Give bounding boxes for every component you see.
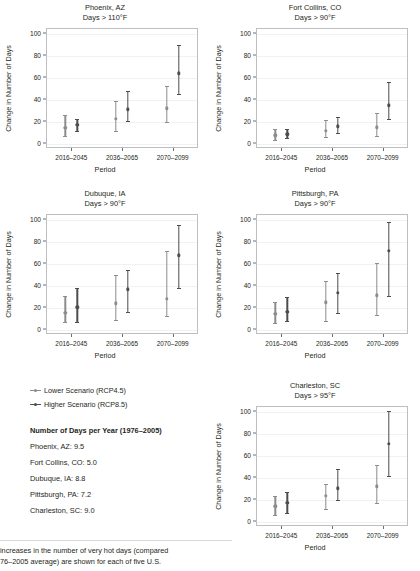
y-axis-tick-mark bbox=[43, 284, 46, 285]
y-axis-label-text: Change in Number of Days bbox=[4, 45, 13, 132]
gridline bbox=[257, 456, 407, 457]
error-bar-cap-upper bbox=[165, 251, 169, 252]
y-axis-tick-label: 40 bbox=[25, 281, 41, 288]
error-bar-cap-lower bbox=[285, 321, 289, 322]
y-axis-label-text: Change in Number of Days bbox=[214, 231, 223, 318]
error-bar-cap-upper bbox=[336, 469, 340, 470]
y-axis-label: Change in Number of Days bbox=[212, 406, 224, 526]
y-axis-tick-mark bbox=[43, 241, 46, 242]
gridline bbox=[257, 144, 407, 145]
gridline bbox=[47, 308, 197, 309]
error-bar-line bbox=[166, 251, 167, 316]
plot-area: Change in Number of Days0204060801002016… bbox=[210, 402, 420, 564]
error-bar-line bbox=[376, 113, 377, 136]
error-bar-line bbox=[166, 86, 167, 121]
error-bar-cap-lower bbox=[177, 288, 181, 289]
gridline bbox=[47, 34, 197, 35]
error-bar-cap-upper bbox=[273, 302, 277, 303]
error-bar-cap-lower bbox=[75, 322, 79, 323]
baseline-row-phoenix: Phoenix, AZ: 9.5 bbox=[30, 442, 205, 451]
error-bar-cap-upper bbox=[375, 113, 379, 114]
error-bar-cap-lower bbox=[375, 315, 379, 316]
y-axis-tick-mark bbox=[253, 284, 256, 285]
chart-panel-pittsburgh: Pittsburgh, PADays > 90°FChange in Numbe… bbox=[210, 186, 420, 372]
y-axis-tick-label: 100 bbox=[235, 408, 251, 415]
chart-panel-phoenix: Phoenix, AZDays > 110°FChange in Number … bbox=[0, 0, 210, 186]
error-bar-cap-lower bbox=[387, 476, 391, 477]
x-axis-tick-label: 2036–2065 bbox=[316, 154, 348, 161]
chart-panel-charleston: Charleston, SCDays > 95°FChange in Numbe… bbox=[210, 378, 420, 564]
x-axis-tick-label: 2070–2099 bbox=[367, 340, 399, 347]
error-bar-cap-lower bbox=[387, 119, 391, 120]
gridline bbox=[257, 56, 407, 57]
error-bar-cap-upper bbox=[177, 45, 181, 46]
error-bar-cap-lower bbox=[285, 138, 289, 139]
error-bar-cap-upper bbox=[177, 225, 181, 226]
y-axis-tick-mark bbox=[253, 455, 256, 456]
panel-title-city: Phoenix, AZ bbox=[85, 3, 125, 12]
y-axis-tick-label: 0 bbox=[235, 517, 251, 524]
panel-title-threshold: Days > 110°F bbox=[0, 13, 210, 23]
y-axis-tick-label: 80 bbox=[235, 52, 251, 59]
error-bar-cap-lower bbox=[114, 320, 118, 321]
error-bar-cap-lower bbox=[63, 136, 67, 137]
error-bar-cap-upper bbox=[75, 288, 79, 289]
y-axis-tick-label: 100 bbox=[235, 216, 251, 223]
baseline-days-heading: Number of Days per Year (1976–2005) bbox=[30, 426, 205, 435]
x-axis-tick-label: 2016–2045 bbox=[265, 154, 297, 161]
y-axis-tick-label: 80 bbox=[25, 52, 41, 59]
panel-title: Phoenix, AZDays > 110°F bbox=[0, 0, 210, 22]
plot-area: Change in Number of Days0204060801002016… bbox=[210, 24, 420, 186]
x-axis-label: Period bbox=[210, 165, 420, 174]
gridline bbox=[257, 34, 407, 35]
error-bar-cap-upper bbox=[165, 86, 169, 87]
x-axis-tick-label: 2070–2099 bbox=[367, 532, 399, 539]
error-bar-line bbox=[65, 296, 66, 322]
gridline bbox=[47, 78, 197, 79]
y-axis-tick-mark bbox=[253, 77, 256, 78]
panel-title-city: Fort Collins, CO bbox=[289, 3, 342, 12]
plot-frame bbox=[256, 406, 408, 526]
error-bar-line bbox=[127, 91, 128, 121]
gridline bbox=[257, 122, 407, 123]
legend-errorbar-icon bbox=[30, 401, 41, 408]
gridline bbox=[257, 330, 407, 331]
baseline-days-info: Number of Days per Year (1976–2005) Phoe… bbox=[30, 426, 205, 522]
panel-title-threshold: Days > 95°F bbox=[210, 391, 420, 401]
gridline bbox=[47, 122, 197, 123]
y-axis-tick-mark bbox=[253, 498, 256, 499]
legend-item-higher: Higher Scenario (RCP8.5) bbox=[30, 400, 200, 409]
panel-title-city: Charleston, SC bbox=[290, 381, 340, 390]
y-axis-tick-label: 100 bbox=[235, 30, 251, 37]
x-axis-tick-label: 2036–2065 bbox=[316, 340, 348, 347]
x-axis-tick-label: 2016–2045 bbox=[265, 532, 297, 539]
error-bar-cap-upper bbox=[336, 273, 340, 274]
error-bar-cap-upper bbox=[285, 129, 289, 130]
error-bar-cap-lower bbox=[336, 133, 340, 134]
error-bar-cap-upper bbox=[285, 297, 289, 298]
caption-line-1: increases in the number of very hot days… bbox=[0, 546, 232, 557]
error-bar-line bbox=[178, 45, 179, 94]
gridline bbox=[257, 286, 407, 287]
error-bar-cap-lower bbox=[375, 503, 379, 504]
y-axis-tick-label: 20 bbox=[235, 495, 251, 502]
y-axis-tick-label: 40 bbox=[235, 473, 251, 480]
y-axis-tick-mark bbox=[43, 55, 46, 56]
error-bar-cap-lower bbox=[285, 513, 289, 514]
baseline-row-charleston: Charleston, SC: 9.0 bbox=[30, 506, 205, 515]
error-bar-line bbox=[376, 263, 377, 315]
y-axis-tick-mark bbox=[253, 98, 256, 99]
y-axis-label: Change in Number of Days bbox=[212, 214, 224, 334]
y-axis-tick-label: 40 bbox=[235, 281, 251, 288]
legend-item-label: Lower Scenario (RCP4.5) bbox=[44, 386, 126, 395]
error-bar-cap-upper bbox=[375, 263, 379, 264]
error-bar-cap-lower bbox=[336, 500, 340, 501]
panel-title-city: Dubuque, IA bbox=[84, 189, 125, 198]
plot-area: Change in Number of Days0204060801002016… bbox=[210, 210, 420, 372]
legend-item-lower: Lower Scenario (RCP4.5) bbox=[30, 386, 200, 395]
y-axis-tick-mark bbox=[43, 120, 46, 121]
y-axis-tick-mark bbox=[253, 476, 256, 477]
error-bar-cap-upper bbox=[63, 115, 67, 116]
error-bar-cap-upper bbox=[285, 492, 289, 493]
x-axis-tick-label: 2070–2099 bbox=[157, 154, 189, 161]
